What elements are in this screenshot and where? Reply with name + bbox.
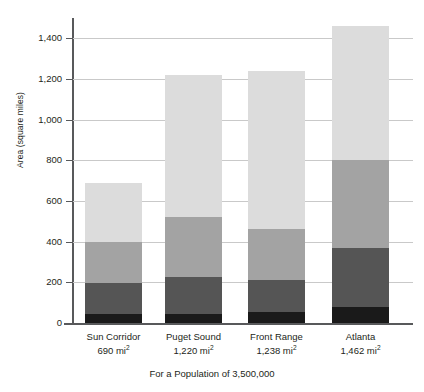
y-axis-title: Area (square miles) [15,40,25,220]
x-axis-line [64,323,413,325]
bar-segment-segment-1-black [85,314,142,323]
bar-puget-sound[interactable] [165,75,222,323]
bar-front-range[interactable] [248,71,305,323]
y-tick-label: 0 [2,318,62,328]
bar-atlanta[interactable] [332,26,389,323]
unit-exponent: 2 [377,343,381,350]
bar-segment-segment-2-dark-gray [165,277,222,314]
category-area-value: 1,462 mi2 [306,344,416,358]
category-name: Sun Corridor [87,331,141,342]
bar-segment-segment-2-dark-gray [85,283,142,314]
y-tick-label: 1,400 [2,33,62,43]
y-tick-label: 1,200 [2,74,62,84]
y-tick-label: 600 [2,196,62,206]
bar-segment-segment-1-black [165,314,222,323]
category-name: Front Range [250,331,303,342]
category-name: Puget Sound [166,331,221,342]
x-category-label-atlanta: Atlanta1,462 mi2 [306,330,416,357]
y-tick-mark [66,323,73,324]
y-tick-label: 200 [2,277,62,287]
y-tick-label: 400 [2,237,62,247]
bar-segment-segment-2-dark-gray [248,280,305,312]
bar-sun-corridor[interactable] [85,183,142,323]
bar-segment-segment-1-black [332,307,389,323]
bar-segment-segment-1-black [248,312,305,323]
unit-exponent: 2 [126,343,130,350]
bar-segment-segment-3-medium-gray [332,160,389,247]
plot-area [72,18,413,323]
stacked-bar-chart: Area (square miles) 02004006008001,0001,… [0,0,424,392]
bar-segment-segment-4-light-gray [165,75,222,217]
bar-segment-segment-2-dark-gray [332,248,389,307]
unit-exponent: 2 [210,343,214,350]
bar-segment-segment-4-light-gray [248,71,305,229]
category-name: Atlanta [346,331,376,342]
bar-segment-segment-3-medium-gray [165,217,222,277]
bar-segment-segment-3-medium-gray [85,242,142,284]
bar-segment-segment-4-light-gray [85,183,142,242]
y-tick-label: 1,000 [2,115,62,125]
unit-exponent: 2 [293,343,297,350]
bar-segment-segment-3-medium-gray [248,229,305,280]
y-tick-label: 800 [2,155,62,165]
chart-footnote: For a Population of 3,500,000 [0,368,424,379]
bar-segment-segment-4-light-gray [332,26,389,161]
